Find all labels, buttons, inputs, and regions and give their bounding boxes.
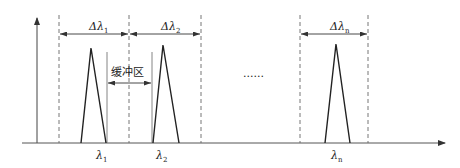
lambda-text: λ (156, 149, 163, 162)
peak-lambda-2 (153, 45, 179, 143)
subscript: n (345, 27, 350, 35)
ellipsis: ...... (243, 68, 264, 79)
subscript: 1 (103, 156, 107, 164)
spectral-peaks (81, 44, 350, 143)
delta-lambda-text: Δλ (161, 20, 176, 33)
delta-lambda-text: Δλ (330, 20, 345, 33)
subscript: 1 (104, 27, 108, 35)
subscript: 2 (163, 156, 167, 164)
center-wavelength-label-2: λ2 (156, 150, 167, 164)
diagram-canvas (0, 0, 460, 168)
buffer-zone-label: 缓冲区 (111, 67, 144, 78)
lambda-text: λ (331, 149, 338, 162)
channel-width-label-2: Δλ2 (161, 21, 180, 35)
channel-width-label-1: Δλ1 (89, 21, 108, 35)
channel-width-label-n: Δλn (330, 21, 349, 35)
subscript: 2 (176, 27, 180, 35)
lambda-text: λ (96, 149, 103, 162)
wdm-channel-diagram: Δλ1 Δλ2 Δλn 缓冲区 ...... λ1 λ2 λn (0, 0, 460, 168)
peak-lambda-n (325, 44, 350, 143)
delta-lambda-text: Δλ (89, 20, 104, 33)
center-wavelength-label-1: λ1 (96, 150, 107, 164)
center-wavelength-label-n: λn (331, 150, 343, 164)
peak-lambda-1 (81, 48, 106, 143)
subscript: n (338, 156, 343, 164)
